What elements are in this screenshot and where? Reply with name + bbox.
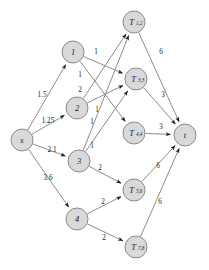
edge-weight-1-t33: 1: [94, 48, 98, 56]
node-n3[interactable]: 3: [68, 150, 90, 172]
edge-weight-s-2: 1.25: [42, 117, 55, 125]
edge-weight-3-t56: 2: [98, 164, 102, 172]
node-s[interactable]: s: [11, 129, 33, 151]
edge-t44-t: [145, 133, 170, 134]
edge-weight-2-t33: 1: [95, 106, 99, 114]
edge-weight-t33-t: 3: [161, 91, 165, 99]
node-t56[interactable]: T5,6: [123, 179, 145, 201]
edge-weight-t44-t: 3: [159, 123, 163, 131]
node-n1[interactable]: 1: [62, 41, 84, 63]
node-t44[interactable]: T4,4: [123, 122, 145, 144]
node-n4[interactable]: 4: [66, 208, 88, 230]
edge-layer: [28, 32, 179, 240]
edge-weight-t12-t: 6: [159, 48, 163, 56]
edge-weight-4-t78: 2: [102, 234, 106, 242]
edge-weight-s-1: 1.5: [38, 91, 47, 99]
node-sublabel-t33: 3,3: [138, 77, 145, 83]
network-diagram-figure: s1234T1,2T3,3T4,4T5,6T7,8t 1.51.252.13.6…: [0, 0, 209, 270]
node-sublabel-t56: 5,6: [136, 188, 143, 194]
edge-weight-3-t12: 1: [90, 118, 94, 126]
edge-weight-s-4: 3.6: [44, 174, 53, 182]
edge-weight-s-3: 2.1: [48, 146, 57, 154]
edge-weight-1-t44: 1: [78, 71, 82, 79]
graph-canvas: s1234T1,2T3,3T4,4T5,6T7,8t 1.51.252.13.6…: [0, 0, 209, 270]
node-sublabel-t78: 7,8: [138, 245, 145, 251]
node-sublabel-t12: 1,2: [136, 20, 143, 26]
node-sublabel-t44: 4,4: [136, 131, 143, 137]
node-n2[interactable]: 2: [66, 97, 88, 119]
edge-weight-4-t56: 2: [101, 198, 105, 206]
edge-weight-3-t33: 1: [90, 142, 94, 150]
edge-weight-t78-t: 6: [158, 198, 162, 206]
edge-t33-t: [144, 88, 176, 124]
edge-3-t56: [89, 166, 121, 183]
edge-3-t12: [83, 35, 128, 150]
edge-weight-2-t12: 2: [78, 86, 82, 94]
node-label-n1: 1: [71, 47, 75, 57]
node-t33[interactable]: T3,3: [125, 68, 147, 90]
edge-weight-t56-t: 6: [156, 162, 160, 170]
node-label-n3: 3: [76, 156, 81, 166]
edge-2-t12: [83, 34, 126, 98]
node-t[interactable]: t: [174, 124, 196, 146]
node-t12[interactable]: T1,2: [123, 11, 145, 33]
node-t78[interactable]: T7,8: [125, 236, 147, 258]
